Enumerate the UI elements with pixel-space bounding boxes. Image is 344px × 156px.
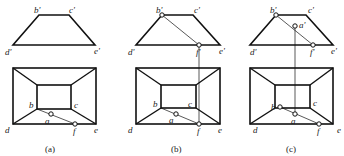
panel-a [13,15,96,126]
front-view-trapezoid [136,15,220,45]
panel-c [250,13,333,126]
line-b-f-prime [162,15,199,45]
line-b-f [161,108,199,124]
projection-diagram: b' c' d' e' b c d e a f (a) b' c' d' f' … [0,0,344,156]
caption-b: (b) [171,144,182,154]
label-e-prime: e' [331,46,338,56]
label-d: d [253,125,258,135]
label-d-prime: d' [5,47,13,57]
label-c-prime: c' [308,5,315,15]
label-a: a [45,116,50,126]
label-f: f [73,126,77,136]
label-f-prime: f' [310,47,316,57]
label-c: c [188,99,192,109]
label-a-prime: a' [299,20,307,30]
label-b-prime: b' [156,5,164,15]
front-view-trapezoid [13,15,95,45]
label-e: e [94,125,98,135]
caption-a: (a) [45,144,55,154]
label-b: b [153,99,158,109]
label-d-prime: d' [250,47,258,57]
label-d: d [5,125,10,135]
line-b-f-prime [276,15,313,45]
label-d-prime: d' [128,47,136,57]
label-a: a [291,116,296,126]
label-e: e [337,125,341,135]
label-d: d [128,125,133,135]
label-e-prime: e' [219,46,226,56]
label-e-prime: e' [94,46,101,56]
label-b-prime: b' [34,5,42,15]
label-b: b [29,100,34,110]
line-b-f [37,109,75,124]
label-c: c [313,98,317,108]
label-f: f [197,126,201,136]
caption-c: (c) [286,144,296,154]
point-b [278,105,282,109]
label-c-prime: c' [194,5,201,15]
front-view-trapezoid [250,15,333,45]
label-a: a [169,115,174,125]
label-c: c [74,100,78,110]
panel-b [136,13,220,126]
label-f: f [317,126,321,136]
label-e: e [218,125,222,135]
label-c-prime: c' [69,5,76,15]
label-b-prime: b' [270,5,278,15]
point-a [174,112,178,116]
label-f-prime: f' [196,47,202,57]
top-view-inner-rect [37,85,71,109]
label-b: b [271,102,276,112]
